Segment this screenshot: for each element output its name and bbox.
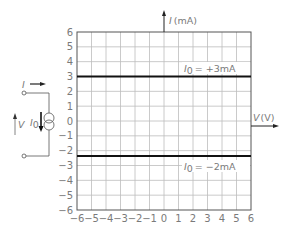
iv-characteristic-chart: 6543210−1−2−3−4−5−6 −6−5−4−3−2−10123456 …	[0, 0, 292, 243]
x-tick-label: −5	[84, 213, 99, 224]
x-tick-label: 5	[233, 213, 239, 224]
x-tick-label: 3	[204, 213, 210, 224]
x-tick-label: −1	[142, 213, 157, 224]
y-tick-label: 1	[67, 101, 73, 112]
terminal-top	[22, 91, 26, 95]
y-tick-label: 4	[67, 56, 73, 67]
x-tick-label: 2	[190, 213, 196, 224]
annotation-minus2ma: I0= −2mA	[184, 161, 236, 174]
source-label: I0	[30, 117, 39, 130]
x-tick-label: 0	[161, 213, 167, 224]
terminal-bottom	[22, 154, 26, 158]
y-tick-label: −1	[58, 130, 73, 141]
y-tick-label: 3	[67, 71, 73, 82]
y-tick-label: −2	[58, 145, 73, 156]
source-circle-lower	[44, 120, 54, 130]
x-axis-label: V(V)	[253, 112, 274, 123]
y-tick-label: −4	[58, 175, 73, 186]
voltage-arrow-icon	[13, 113, 17, 135]
x-tick-label: 4	[219, 213, 225, 224]
y-tick-labels: 6543210−1−2−3−4−5−6	[58, 27, 73, 216]
chart-grid	[77, 32, 251, 210]
source-direction-arrow-icon	[39, 112, 44, 132]
y-tick-label: −5	[58, 190, 73, 201]
x-tick-label: −2	[128, 213, 143, 224]
voltage-label: V	[18, 119, 26, 130]
y-axis-label: I(mA)	[169, 15, 197, 26]
y-tick-label: 2	[67, 86, 73, 97]
y-tick-label: 6	[67, 27, 73, 38]
x-axis-arrow-icon	[251, 124, 279, 128]
x-tick-label: 1	[175, 213, 181, 224]
y-tick-label: −3	[58, 160, 73, 171]
current-label: I	[22, 79, 25, 90]
x-tick-label: −4	[99, 213, 114, 224]
annotation-plus3ma: I0= +3mA	[184, 63, 236, 76]
current-arrow-icon	[30, 82, 46, 86]
x-tick-label: −3	[113, 213, 128, 224]
x-tick-label: 6	[248, 213, 254, 224]
y-tick-label: 5	[67, 41, 73, 52]
y-tick-label: 0	[67, 116, 73, 127]
x-tick-label: −6	[70, 213, 85, 224]
x-tick-labels: −6−5−4−3−2−10123456	[70, 213, 255, 224]
y-axis-arrow-icon	[162, 10, 166, 32]
